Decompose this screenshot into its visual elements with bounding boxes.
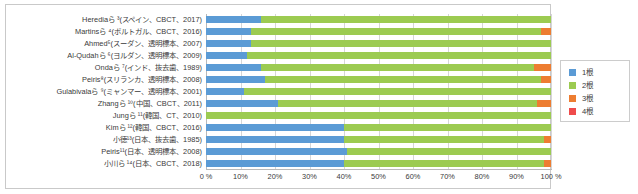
- bar-segment-2根: [278, 100, 537, 107]
- legend-item: 3根: [569, 92, 629, 105]
- x-axis-tick-labels: 0 %10%20%30%40%50%60%70%80%90%100 %: [206, 171, 552, 185]
- bar-segment-2根: [347, 148, 551, 155]
- x-tick-label: 100 %: [531, 171, 571, 183]
- gridline-100: [551, 14, 552, 169]
- bar-segment-2根: [265, 76, 541, 83]
- legend-swatch-icon: [569, 108, 576, 115]
- bar-segment-1根: [206, 16, 261, 23]
- bar-row: [206, 112, 551, 119]
- legend-item: 2根: [569, 79, 629, 92]
- bar-row: [206, 40, 551, 47]
- category-label: Ahmed⁵(スーダン、透明標本、2007): [84, 38, 202, 49]
- legend-label: 1根: [582, 66, 594, 79]
- legend-item: 1根: [569, 66, 629, 79]
- legend-label: 2根: [582, 79, 594, 92]
- bar-segment-1根: [206, 52, 247, 59]
- bar-segment-2根: [206, 112, 551, 119]
- bar-row: [206, 148, 551, 155]
- category-label: 小徳¹³(日本、抜去歯、1985): [113, 134, 202, 145]
- category-label: 小川ら ¹⁴(日本、CBCT、2018): [104, 158, 202, 169]
- category-label: Martinsら ⁴(ポルトガル、CBCT、2016): [75, 26, 202, 37]
- bar-segment-3根: [541, 28, 551, 35]
- bar-segment-2根: [244, 88, 551, 95]
- category-label: Kimら ¹²(韓国、CBCT、2016): [106, 122, 202, 133]
- bar-segment-1根: [206, 136, 344, 143]
- bar-segment-2根: [247, 52, 551, 59]
- bar-segment-2根: [344, 160, 544, 167]
- legend-item: 4根: [569, 105, 629, 118]
- bar-segment-3根: [537, 100, 551, 107]
- category-label: Zhangら ¹⁰(中国、CBCT、2011): [98, 98, 202, 109]
- legend-swatch-icon: [569, 69, 576, 76]
- legend-label: 4根: [582, 105, 594, 118]
- category-label: Jungら ¹¹(韓国、CT、2010): [113, 110, 202, 121]
- legend-label: 3根: [582, 92, 594, 105]
- bar-segment-1根: [206, 40, 251, 47]
- bar-segment-2根: [251, 40, 551, 47]
- bar-segment-3根: [544, 160, 551, 167]
- bar-row: [206, 88, 551, 95]
- bar-segment-2根: [344, 124, 551, 131]
- bar-row: [206, 124, 551, 131]
- x-axis-line: [206, 169, 552, 170]
- category-label: Al-Qudahら ⁶(ヨルダン、透明標本、2009): [67, 50, 202, 61]
- legend-swatch-icon: [569, 82, 576, 89]
- bar-segment-1根: [206, 76, 265, 83]
- bar-segment-3根: [541, 76, 551, 83]
- bar-segment-1根: [206, 160, 344, 167]
- bar-segment-2根: [251, 28, 541, 35]
- bar-row: [206, 16, 551, 23]
- bar-segment-1根: [206, 64, 261, 71]
- bar-segment-1根: [206, 88, 244, 95]
- plot-area: [206, 14, 551, 169]
- bar-segment-1根: [206, 124, 344, 131]
- category-axis-labels: Herediaら ³(スペイン、CBCT、2017)Martinsら ⁴(ポルト…: [14, 14, 202, 169]
- bar-segment-1根: [206, 100, 278, 107]
- chart-screenshot: Herediaら ³(スペイン、CBCT、2017)Martinsら ⁴(ポルト…: [0, 0, 638, 194]
- bar-row: [206, 100, 551, 107]
- bar-row: [206, 52, 551, 59]
- chart-legend: 1根2根3根4根: [560, 60, 630, 122]
- bar-segment-1根: [206, 28, 251, 35]
- bar-segment-3根: [534, 64, 551, 71]
- bar-row: [206, 160, 551, 167]
- category-label: Peiris⁸(スリランカ、透明標本、2008): [82, 74, 202, 85]
- bar-segment-2根: [344, 136, 544, 143]
- category-label: Ondaら ⁷(インド、抜去歯、1989): [95, 62, 202, 73]
- legend-swatch-icon: [569, 95, 576, 102]
- category-label: Peiris¹¹(日本、透明標本、2008): [101, 146, 202, 157]
- category-label: Herediaら ³(スペイン、CBCT、2017): [82, 14, 202, 25]
- bar-row: [206, 76, 551, 83]
- bar-segment-2根: [261, 16, 551, 23]
- bar-row: [206, 136, 551, 143]
- bar-row: [206, 28, 551, 35]
- bar-segment-1根: [206, 148, 347, 155]
- bar-segment-3根: [544, 136, 551, 143]
- bar-row: [206, 64, 551, 71]
- category-label: Gulabivalaら ⁹(ミャンマー、透明標本、2001): [56, 86, 202, 97]
- bar-rows: [206, 14, 551, 169]
- chart-plot-frame: Herediaら ³(スペイン、CBCT、2017)Martinsら ⁴(ポルト…: [5, 4, 551, 189]
- bar-segment-2根: [261, 64, 534, 71]
